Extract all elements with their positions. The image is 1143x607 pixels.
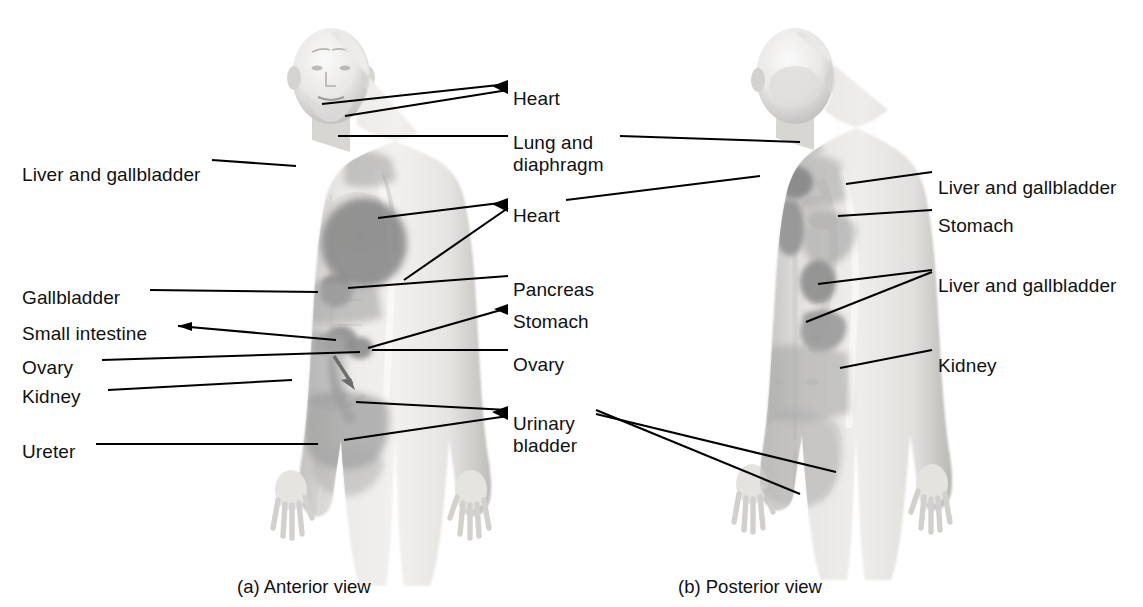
caption-anterior-view: (a) Anterior view xyxy=(237,576,371,598)
label-small-intestine: Small intestine xyxy=(22,323,147,345)
label-gallbladder-anterior: Gallbladder xyxy=(22,287,120,309)
label-kidney-posterior: Kidney xyxy=(938,355,997,377)
label-stomach-posterior: Stomach xyxy=(938,215,1014,237)
label-liver-gallbladder-posterior-2: Liver and gallbladder xyxy=(938,275,1117,297)
label-heart-anterior-chest: Heart xyxy=(513,205,560,227)
label-ovary-center: Ovary xyxy=(513,354,564,376)
label-lung-and-diaphragm: Lung and xyxy=(513,132,593,154)
anterior-figure xyxy=(268,28,491,586)
label-kidney-anterior-left: Kidney xyxy=(22,386,81,408)
posterior-figure xyxy=(734,28,952,580)
label-pancreas: Pancreas xyxy=(513,279,594,301)
referred-pain-figure: Liver and gallbladder Gallbladder Small … xyxy=(0,0,1143,607)
zone-upper-abdomen-band xyxy=(290,282,382,324)
label-heart-anterior-neck: Heart xyxy=(513,88,560,110)
label-liver-gallbladder-anterior: Liver and gallbladder xyxy=(22,164,201,186)
label-liver-gallbladder-posterior-1: Liver and gallbladder xyxy=(938,177,1117,199)
caption-posterior-view: (b) Posterior view xyxy=(678,576,822,598)
label-urinary-bladder-2: bladder xyxy=(513,435,577,457)
zone-liver-gallbladder-scapula xyxy=(777,166,813,198)
anatomy-illustration xyxy=(0,0,1143,607)
label-stomach-anterior: Stomach xyxy=(513,311,589,333)
zone-liver-gallbladder-shoulder xyxy=(268,150,318,187)
zone-kidney-posterior xyxy=(752,345,850,421)
label-urinary-bladder: Urinary xyxy=(513,413,575,435)
zone-stomach-posterior xyxy=(775,200,805,256)
label-lung-and-diaphragm-2: diaphragm xyxy=(513,154,604,176)
label-ovary-anterior-left: Ovary xyxy=(22,357,73,379)
label-ureter: Ureter xyxy=(22,441,75,463)
